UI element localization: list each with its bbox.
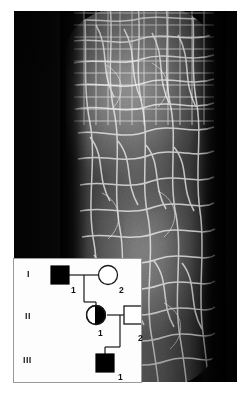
generation-3-label: III <box>23 356 32 365</box>
pedigree-id-II-2: 2 <box>138 334 143 343</box>
skin-scale-pattern-fine <box>74 11 214 125</box>
pedigree-symbol-III-1 <box>96 354 114 372</box>
pedigree-id-I-1: 1 <box>71 286 76 295</box>
pedigree-id-III-1: 1 <box>118 373 123 382</box>
generation-1-label: I <box>27 270 30 279</box>
pedigree-symbol-I-2 <box>99 266 118 285</box>
limb-right-shadow <box>200 11 226 382</box>
pedigree-diagram <box>14 259 141 382</box>
pedigree-chart: I II III 1 2 1 2 1 <box>13 258 142 383</box>
pedigree-id-I-2: 2 <box>119 286 124 295</box>
pedigree-id-II-1: 1 <box>98 329 103 338</box>
pedigree-symbol-II-2 <box>124 306 141 324</box>
pedigree-symbol-I-1 <box>51 266 69 284</box>
generation-2-label: II <box>25 312 31 321</box>
figure-panel: I II III 1 2 1 2 1 <box>0 0 251 404</box>
